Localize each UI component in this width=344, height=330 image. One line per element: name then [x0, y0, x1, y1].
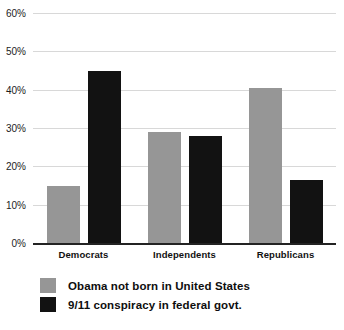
bar-chart: 0%10%20%30%40%50%60% DemocratsIndependen… [0, 0, 344, 330]
chart-legend: Obama not born in United States9/11 cons… [40, 276, 250, 314]
x-axis-category-label: Democrats [33, 249, 134, 260]
legend-swatch-icon [40, 297, 56, 312]
y-axis-tick-label: 50% [0, 46, 26, 57]
bar [88, 71, 121, 244]
plot-area [33, 13, 336, 243]
legend-swatch-icon [40, 278, 56, 293]
y-axis-tick-label: 60% [0, 8, 26, 19]
bar [189, 136, 222, 243]
y-axis-tick-label: 30% [0, 123, 26, 134]
bar [290, 180, 323, 243]
bar [47, 186, 80, 244]
y-axis-tick-label: 20% [0, 161, 26, 172]
legend-label: Obama not born in United States [68, 280, 250, 292]
bar [249, 88, 282, 243]
x-axis-baseline [33, 243, 336, 245]
legend-item: Obama not born in United States [40, 276, 250, 295]
y-axis-tick-label: 40% [0, 84, 26, 95]
bars-layer [33, 13, 336, 243]
legend-label: 9/11 conspiracy in federal govt. [68, 299, 242, 311]
legend-item: 9/11 conspiracy in federal govt. [40, 295, 250, 314]
y-axis-tick-label: 10% [0, 199, 26, 210]
x-axis-category-label: Independents [134, 249, 235, 260]
x-axis-category-label: Republicans [235, 249, 336, 260]
y-axis-tick-label: 0% [0, 238, 26, 249]
bar [148, 132, 181, 243]
